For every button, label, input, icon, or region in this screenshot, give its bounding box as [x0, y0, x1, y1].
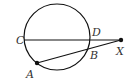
segment-ax: [37, 40, 121, 63]
label-c: C: [16, 34, 25, 47]
label-x: X: [115, 45, 125, 58]
point-a-dot: [35, 61, 39, 65]
circle: [24, 4, 90, 70]
label-d: D: [91, 26, 101, 39]
label-b: B: [89, 49, 98, 62]
label-a: A: [25, 68, 34, 80]
geometry-diagram: C D X B A: [0, 0, 132, 80]
point-x-dot: [119, 38, 123, 42]
